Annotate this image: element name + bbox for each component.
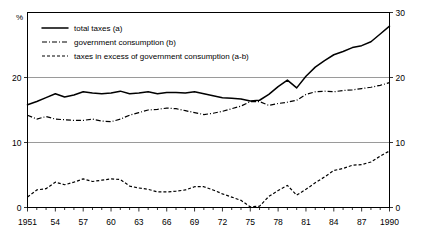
x-tick-label-1990: 1990 bbox=[380, 217, 399, 227]
y-right-tick-label-10: 10 bbox=[396, 138, 406, 148]
y-left-tick-label-0: 0 bbox=[17, 203, 22, 213]
legend-label-2: government consumption (b) bbox=[74, 38, 176, 47]
x-axis-ticks bbox=[28, 208, 390, 212]
x-tick-label-63: 63 bbox=[134, 217, 144, 227]
x-tick-label-84: 84 bbox=[329, 217, 339, 227]
x-tick-label-75: 75 bbox=[246, 217, 256, 227]
x-tick-label-66: 66 bbox=[162, 217, 172, 227]
y-right-tick-label-0: 0 bbox=[396, 203, 401, 213]
x-tick-label-78: 78 bbox=[273, 217, 283, 227]
series-line-taxes_in_excess bbox=[28, 151, 390, 207]
y-axis-left-ticks bbox=[24, 78, 28, 208]
legend-label-3: taxes in excess of government consumptio… bbox=[74, 52, 249, 61]
chart-container: % 19515457606366697275788184871990 01020… bbox=[0, 0, 431, 242]
x-tick-label-60: 60 bbox=[106, 217, 116, 227]
y-right-tick-label-20: 20 bbox=[396, 73, 406, 83]
y-axis-right-tick-labels: 0102030 bbox=[396, 8, 406, 213]
y-axis-left-tick-labels: 01020 bbox=[12, 73, 22, 213]
series-line-government_consumption bbox=[28, 83, 390, 122]
y-left-tick-label-20: 20 bbox=[12, 73, 22, 83]
x-tick-label-72: 72 bbox=[218, 217, 228, 227]
y-axis-unit-label: % bbox=[16, 13, 23, 22]
x-tick-label-1951: 1951 bbox=[18, 217, 37, 227]
x-axis-tick-labels: 19515457606366697275788184871990 bbox=[18, 217, 399, 227]
y-left-tick-label-10: 10 bbox=[12, 138, 22, 148]
legend-label-1: total taxes (a) bbox=[74, 24, 123, 33]
y-right-tick-label-30: 30 bbox=[396, 8, 406, 18]
x-tick-label-54: 54 bbox=[51, 217, 61, 227]
line-chart: % 19515457606366697275788184871990 01020… bbox=[0, 0, 431, 242]
x-tick-label-69: 69 bbox=[190, 217, 200, 227]
y-axis-right-ticks bbox=[390, 13, 394, 208]
x-tick-label-87: 87 bbox=[357, 217, 367, 227]
chart-legend: total taxes (a)government consumption (b… bbox=[42, 24, 249, 61]
gridlines bbox=[28, 78, 390, 143]
x-tick-label-57: 57 bbox=[78, 217, 88, 227]
x-tick-label-81: 81 bbox=[301, 217, 311, 227]
